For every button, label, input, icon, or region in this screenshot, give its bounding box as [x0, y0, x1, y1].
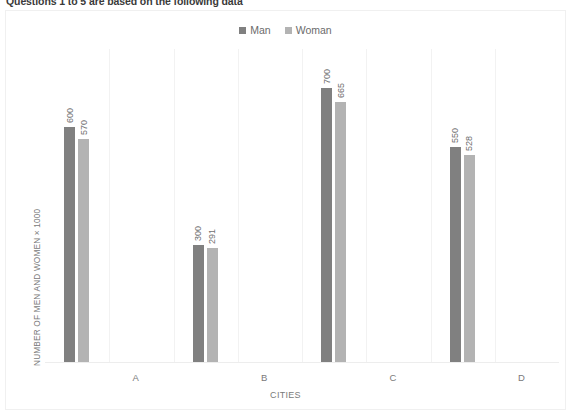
bar-group: 700665	[302, 49, 431, 362]
bar-pair: 300291	[193, 49, 218, 362]
x-axis-label-d: D	[431, 372, 560, 383]
bar-group: 600570	[45, 49, 174, 362]
bar-column: 570	[78, 49, 89, 362]
chart-panel: Man Woman NUMBER OF MEN AND WOMEN × 1000…	[5, 10, 566, 410]
bar-value-label: 570	[79, 120, 89, 135]
bar-man-a[interactable]	[64, 127, 75, 362]
bar-woman-a[interactable]	[78, 139, 89, 362]
x-axis-label-a: A	[45, 372, 174, 383]
bar-column: 300	[193, 49, 204, 362]
legend-swatch-woman	[285, 27, 292, 34]
plot-area: 600570300291700665550528	[45, 49, 559, 363]
bar-value-label: 550	[450, 128, 460, 143]
bar-value-label: 291	[207, 229, 217, 244]
bar-group: 550528	[431, 49, 560, 362]
document-heading: Questions 1 to 5 are based on the follow…	[6, 0, 243, 7]
bar-woman-b[interactable]	[207, 248, 218, 362]
legend-entry-man[interactable]: Man	[239, 24, 270, 36]
bar-value-label: 665	[336, 83, 346, 98]
x-axis-title: CITIES	[6, 390, 565, 400]
bar-value-label: 700	[322, 69, 332, 84]
bar-pair: 550528	[450, 49, 475, 362]
bar-pair: 700665	[321, 49, 346, 362]
legend-entry-woman[interactable]: Woman	[285, 24, 332, 36]
legend-label-man: Man	[250, 24, 270, 36]
bar-column: 700	[321, 49, 332, 362]
x-axis-categories: ABCD	[45, 372, 559, 383]
bar-column: 665	[335, 49, 346, 362]
bar-group: 300291	[174, 49, 303, 362]
x-axis-label-b: B	[174, 372, 303, 383]
legend-label-woman: Woman	[296, 24, 332, 36]
bar-man-c[interactable]	[321, 88, 332, 362]
bar-value-label: 528	[464, 136, 474, 151]
x-axis-label-c: C	[302, 372, 431, 383]
bar-groups: 600570300291700665550528	[45, 49, 559, 362]
bar-column: 600	[64, 49, 75, 362]
bar-column: 528	[464, 49, 475, 362]
chart-legend: Man Woman	[6, 24, 565, 36]
bar-column: 291	[207, 49, 218, 362]
bar-woman-d[interactable]	[464, 155, 475, 362]
y-axis-title: NUMBER OF MEN AND WOMEN × 1000	[32, 126, 42, 366]
bar-pair: 600570	[64, 49, 89, 362]
bar-man-d[interactable]	[450, 147, 461, 362]
bar-column: 550	[450, 49, 461, 362]
legend-swatch-man	[239, 27, 246, 34]
bar-woman-c[interactable]	[335, 102, 346, 362]
bar-value-label: 300	[193, 226, 203, 241]
bar-man-b[interactable]	[193, 245, 204, 362]
bar-value-label: 600	[65, 108, 75, 123]
